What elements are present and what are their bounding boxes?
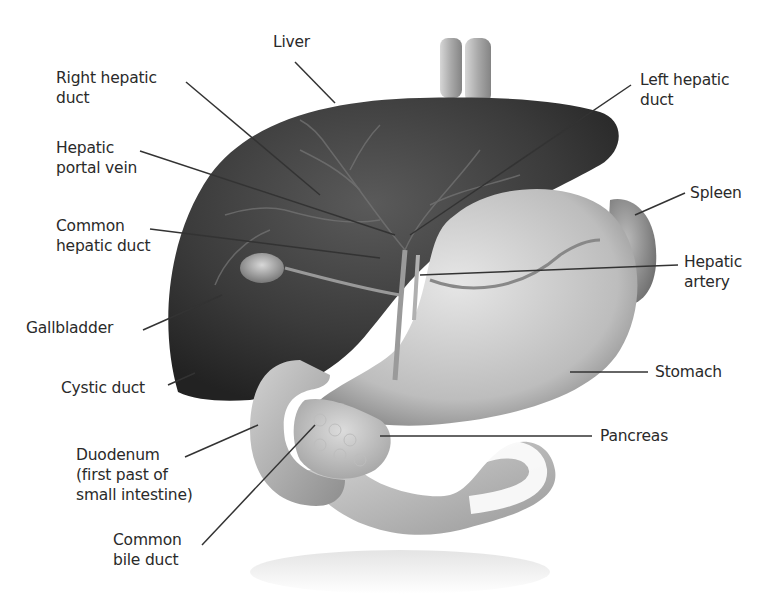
label-common-hepatic-duct: Common hepatic duct [56, 216, 150, 256]
gallbladder-shape [240, 253, 284, 283]
label-left-hepatic-duct: Left hepatic duct [640, 70, 729, 110]
label-pancreas: Pancreas [600, 426, 668, 446]
label-spleen: Spleen [690, 183, 742, 203]
label-gallbladder: Gallbladder [26, 318, 113, 338]
label-hepatic-portal-vein: Hepatic portal vein [56, 138, 137, 178]
anatomy-diagram: Liver Right hepatic duct Hepatic portal … [0, 0, 773, 605]
label-hepatic-artery: Hepatic artery [684, 252, 742, 292]
floor-shadow [250, 550, 550, 594]
label-stomach: Stomach [655, 362, 722, 382]
label-right-hepatic-duct: Right hepatic duct [56, 68, 157, 108]
label-common-bile-duct: Common bile duct [113, 530, 182, 570]
label-duodenum: Duodenum (first past of small intestine) [76, 445, 193, 505]
label-liver: Liver [273, 32, 310, 52]
label-cystic-duct: Cystic duct [61, 378, 145, 398]
great-vessels [440, 38, 491, 104]
